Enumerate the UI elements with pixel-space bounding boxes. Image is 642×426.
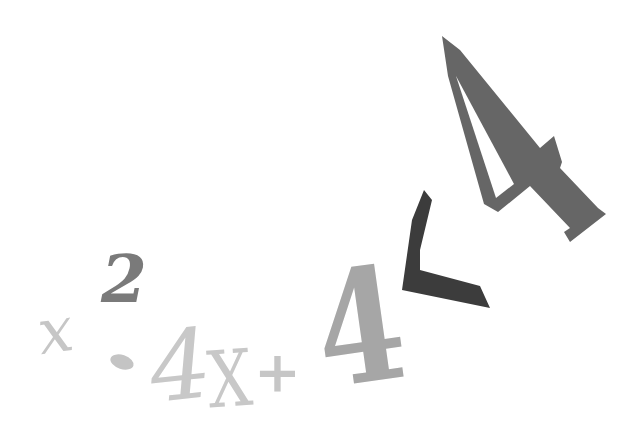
math-inequality-illustration: x 2 4 X + 4	[0, 0, 642, 426]
glyph-minus	[108, 352, 135, 373]
glyph-x: x	[34, 298, 77, 364]
glyph-x-variable: X	[205, 339, 255, 420]
glyph-4-right-side	[430, 36, 610, 246]
glyph-4-coefficient: 4	[145, 315, 216, 417]
glyph-exponent-2: 2	[101, 246, 147, 312]
glyph-plus: +	[254, 344, 301, 400]
